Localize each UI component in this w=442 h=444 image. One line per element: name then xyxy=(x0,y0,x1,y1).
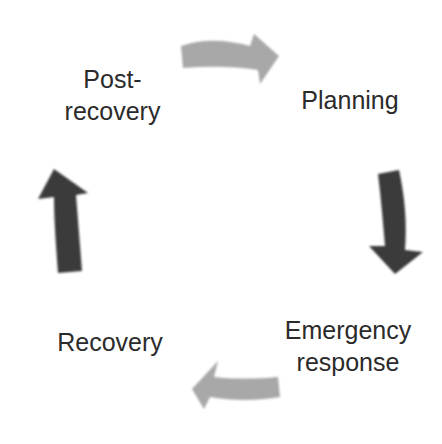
stage-planning-label: Planning xyxy=(296,84,404,116)
arrow-up-icon xyxy=(32,165,94,275)
stage-post-recovery: Post- recovery xyxy=(55,63,170,127)
stage-emergency-response-line2: response xyxy=(282,346,414,378)
arrow-left-icon xyxy=(178,357,283,412)
stage-post-recovery-line2: recovery xyxy=(55,95,170,127)
stage-emergency-response: Emergency response xyxy=(282,314,414,378)
stage-recovery-label: Recovery xyxy=(52,326,168,358)
arrow-down-icon xyxy=(365,168,427,276)
arrow-right-icon xyxy=(178,32,283,90)
stage-planning: Planning xyxy=(296,84,404,116)
stage-recovery: Recovery xyxy=(52,326,168,358)
stage-post-recovery-line1: Post- xyxy=(55,63,170,95)
stage-emergency-response-line1: Emergency xyxy=(282,314,414,346)
